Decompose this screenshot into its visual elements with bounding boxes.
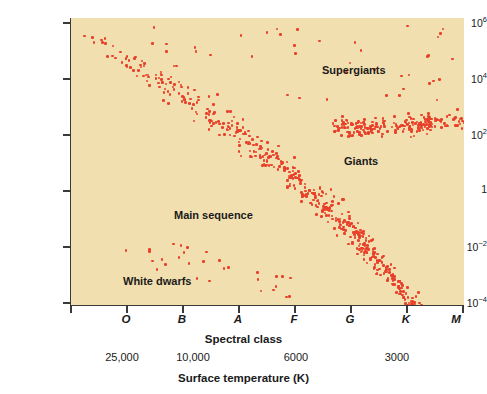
data-point	[356, 247, 359, 250]
data-point	[275, 285, 278, 288]
data-point	[169, 93, 172, 96]
data-point	[194, 46, 197, 49]
data-point	[245, 141, 248, 144]
data-point	[196, 113, 199, 116]
temperature-label: 3000	[362, 351, 432, 363]
data-point	[410, 136, 413, 139]
data-point	[371, 132, 374, 135]
data-point	[382, 256, 385, 259]
data-point	[275, 275, 278, 278]
data-point	[114, 57, 117, 60]
x-tick-label-k: K	[391, 313, 421, 325]
plot-area	[70, 18, 464, 306]
data-point	[371, 256, 374, 259]
data-point	[405, 292, 408, 295]
data-point	[343, 126, 346, 129]
data-point	[195, 50, 198, 53]
data-point	[451, 58, 454, 61]
data-point	[252, 144, 255, 147]
data-point	[386, 130, 389, 133]
data-point	[414, 304, 417, 306]
data-point	[320, 195, 323, 198]
data-point	[288, 295, 291, 298]
data-point	[384, 271, 387, 274]
data-point	[210, 125, 213, 128]
data-point	[218, 134, 221, 137]
data-point	[338, 226, 341, 229]
data-point	[404, 120, 407, 123]
data-point	[328, 214, 331, 217]
data-point	[383, 120, 386, 123]
data-point	[378, 259, 381, 262]
temperature-label: 6000	[261, 351, 331, 363]
data-point	[128, 59, 131, 62]
data-point	[256, 136, 259, 139]
data-point	[236, 131, 239, 134]
data-point	[266, 160, 269, 163]
data-point	[378, 268, 381, 271]
data-point	[175, 65, 178, 68]
data-point	[347, 122, 350, 125]
data-point	[242, 126, 245, 129]
data-point	[354, 41, 357, 44]
data-point	[172, 243, 175, 246]
data-point	[289, 183, 292, 186]
x-tick-mark	[350, 306, 352, 313]
data-point	[339, 218, 342, 221]
data-point	[418, 129, 421, 132]
data-point	[434, 125, 437, 128]
data-point	[137, 69, 140, 72]
data-point	[196, 277, 199, 280]
data-point	[336, 125, 339, 128]
data-point	[283, 169, 286, 172]
data-point	[381, 135, 384, 138]
data-point	[202, 260, 205, 263]
data-point	[412, 118, 415, 121]
data-point	[293, 156, 296, 159]
data-point	[362, 243, 365, 246]
data-point	[363, 121, 366, 124]
data-point	[305, 195, 308, 198]
x-axis-title: Spectral class	[0, 333, 487, 345]
data-point	[429, 129, 432, 132]
data-point	[408, 122, 411, 125]
data-point	[327, 209, 330, 212]
data-point	[331, 218, 334, 221]
data-point	[366, 262, 369, 265]
data-point	[385, 94, 388, 97]
data-point	[187, 86, 190, 89]
data-point	[415, 295, 418, 298]
data-point	[393, 283, 396, 286]
data-point	[260, 140, 263, 143]
data-point	[83, 35, 86, 38]
x-tick-label-g: G	[335, 313, 365, 325]
data-point	[277, 168, 280, 171]
data-point	[446, 125, 449, 128]
data-point	[369, 259, 372, 262]
data-point	[437, 36, 440, 39]
data-point	[119, 51, 122, 54]
data-point	[434, 120, 437, 123]
data-point	[297, 170, 300, 173]
data-point	[360, 247, 363, 250]
data-point	[337, 202, 340, 205]
data-point	[212, 103, 215, 106]
data-point	[296, 177, 299, 180]
data-point	[322, 205, 325, 208]
data-point	[354, 236, 357, 239]
data-point	[286, 161, 289, 164]
data-point	[360, 135, 363, 138]
data-point	[192, 103, 195, 106]
data-point	[156, 268, 159, 271]
data-point	[133, 57, 136, 60]
data-point	[276, 28, 279, 31]
temperature-label: 25,000	[87, 351, 157, 363]
data-point	[271, 150, 274, 153]
data-point	[286, 94, 289, 97]
data-point	[132, 69, 135, 72]
data-point	[158, 86, 161, 89]
data-point	[129, 66, 132, 69]
data-point	[342, 228, 345, 231]
data-point	[347, 135, 350, 138]
data-point	[140, 66, 143, 69]
